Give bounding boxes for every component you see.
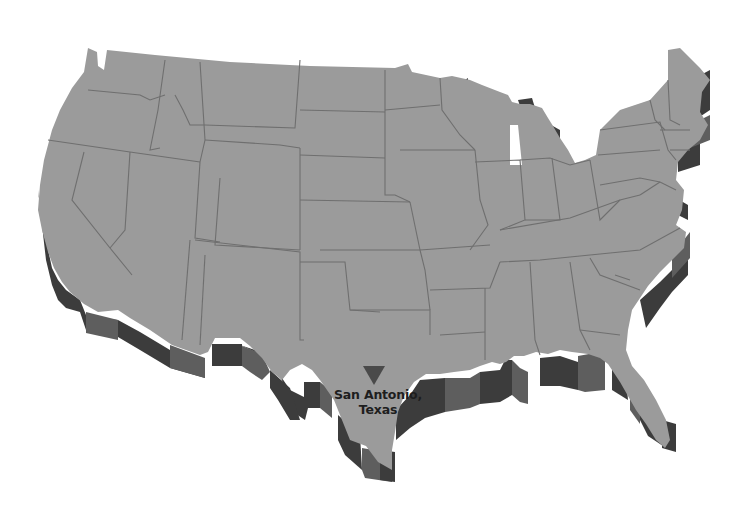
city-label-line2: Texas: [328, 402, 428, 417]
city-label-line1: San Antonio,: [328, 387, 428, 402]
city-label: San Antonio, Texas: [328, 387, 428, 417]
us-map: [0, 0, 748, 521]
